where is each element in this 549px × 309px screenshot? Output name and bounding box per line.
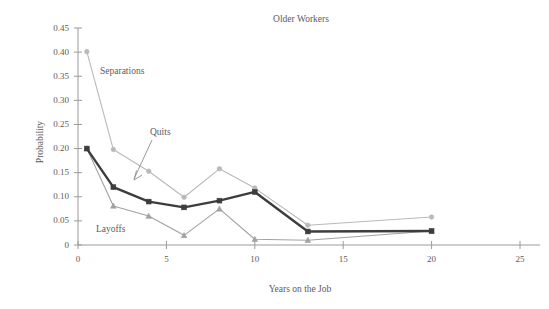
series-label-layoffs: Layoffs xyxy=(96,224,126,234)
data-point-marker xyxy=(306,223,311,228)
data-point-marker xyxy=(146,199,151,204)
x-axis-title: Years on the Job xyxy=(269,284,332,294)
data-point-marker xyxy=(305,229,310,234)
x-tick-label: 20 xyxy=(427,254,437,264)
y-tick-label: 0 xyxy=(65,240,70,250)
data-point-marker xyxy=(111,185,116,190)
y-tick-label: 0.35 xyxy=(53,71,69,81)
y-tick-label: 0.45 xyxy=(53,23,69,33)
quits-annotation-arrowhead xyxy=(134,171,142,181)
data-point-marker xyxy=(252,190,257,195)
y-tick-label: 0.30 xyxy=(53,95,69,105)
y-tick-label: 0.40 xyxy=(53,47,69,57)
y-tick-label: 0.15 xyxy=(53,167,69,177)
series-group xyxy=(84,49,434,242)
x-tick-label: 10 xyxy=(250,254,260,264)
data-point-marker xyxy=(182,205,187,210)
axes-group: 00.050.100.150.200.250.300.350.400.45051… xyxy=(53,23,540,264)
series-label-separations: Separations xyxy=(100,66,145,76)
y-tick-label: 0.20 xyxy=(53,143,69,153)
data-point-marker xyxy=(217,167,222,172)
data-point-marker xyxy=(146,169,151,174)
x-tick-label: 0 xyxy=(76,254,81,264)
series-line xyxy=(87,149,432,232)
series-label-quits: Quits xyxy=(150,127,171,137)
annotations-group: SeparationsQuitsLayoffs xyxy=(96,66,171,234)
y-tick-label: 0.10 xyxy=(53,191,69,201)
y-axis-title: Probability xyxy=(35,121,45,163)
y-tick-label: 0.25 xyxy=(53,119,69,129)
data-point-marker xyxy=(217,206,223,211)
data-point-marker xyxy=(85,49,90,54)
data-point-marker xyxy=(429,215,434,220)
x-tick-label: 5 xyxy=(164,254,169,264)
series-separations xyxy=(85,49,434,227)
x-tick-label: 15 xyxy=(339,254,349,264)
x-tick-label: 25 xyxy=(516,254,526,264)
data-point-marker xyxy=(111,203,117,208)
series-line xyxy=(87,52,432,226)
data-point-marker xyxy=(182,195,187,200)
data-point-marker xyxy=(217,198,222,203)
chart-title: Older Workers xyxy=(273,14,329,24)
data-point-marker xyxy=(111,147,116,152)
y-tick-label: 0.05 xyxy=(53,215,69,225)
chart-container: 00.050.100.150.200.250.300.350.400.45051… xyxy=(0,0,549,309)
line-chart: 00.050.100.150.200.250.300.350.400.45051… xyxy=(0,0,549,309)
data-point-marker xyxy=(84,146,89,151)
data-point-marker xyxy=(429,229,434,234)
